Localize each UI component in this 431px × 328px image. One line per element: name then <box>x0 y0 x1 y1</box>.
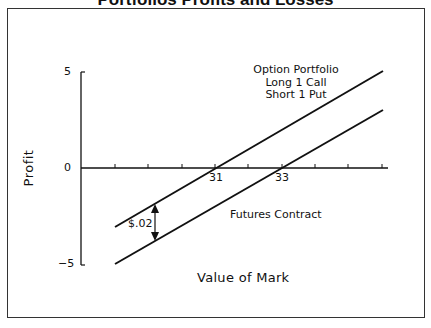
option-label: Option Portfolio <box>253 64 338 77</box>
futures-contract-label: Futures Contract <box>230 208 322 221</box>
ytick-0: 0 <box>64 161 71 174</box>
ytick-5: 5 <box>64 65 71 78</box>
y-axis-label: Profit <box>21 150 36 187</box>
short-put-label: Short 1 Put <box>253 89 338 102</box>
ytick-neg5: −5 <box>58 257 74 270</box>
option-portfolio-annotation: Option Portfolio Long 1 Call Short 1 Put <box>253 64 338 102</box>
xtick-31: 31 <box>209 171 223 184</box>
spread-label: $.02 <box>128 217 153 230</box>
futures-contract-line <box>115 110 383 264</box>
option-portfolio-line <box>115 71 383 227</box>
xtick-33: 33 <box>275 171 289 184</box>
x-axis-label: Value of Mark <box>197 270 289 285</box>
